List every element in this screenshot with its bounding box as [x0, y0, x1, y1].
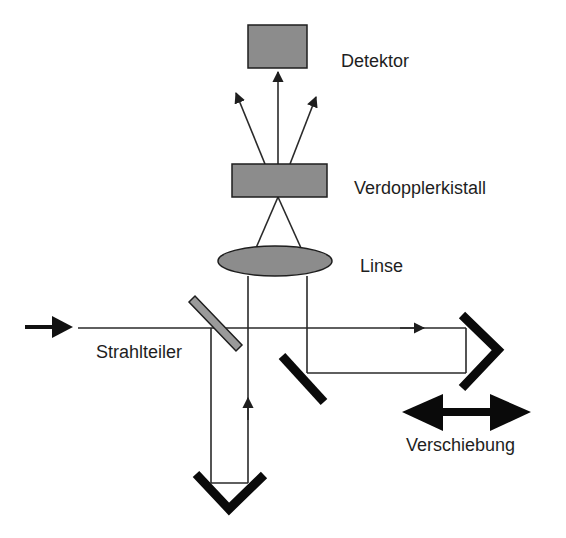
beamsplitter-plate: [189, 296, 242, 351]
lens-label: Linse: [360, 257, 403, 275]
input-beam-arrow-icon: [25, 316, 73, 338]
doubling-crystal-box: [232, 164, 327, 197]
fold-mirror: [282, 356, 324, 402]
translation-label: Verschiebung: [406, 436, 515, 454]
beamsplitter-label: Strahlteiler: [96, 343, 182, 361]
beam-paths: [78, 72, 466, 483]
translation-double-arrow-icon: [402, 394, 531, 431]
crystal-label: Verdopplerkistall: [354, 179, 486, 197]
detector-box: [248, 25, 307, 68]
lens-shape: [218, 246, 332, 276]
diagram-graphics: [0, 0, 566, 538]
movable-retroreflector: [462, 315, 498, 388]
detector-label: Detektor: [341, 52, 409, 70]
fixed-retroreflector: [196, 474, 264, 509]
autocorrelator-diagram: Detektor Verdopplerkistall Linse Strahlt…: [0, 0, 566, 538]
